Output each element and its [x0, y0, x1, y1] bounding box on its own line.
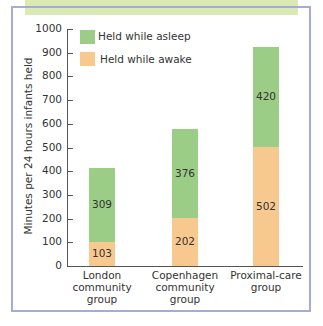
legend-swatch-awake	[80, 52, 95, 66]
value-label-asleep: 309	[82, 198, 122, 210]
x-axis	[67, 266, 303, 267]
x-category-label-line: Copenhagen	[145, 269, 225, 281]
x-category-label: Proximal-caregroup	[226, 269, 306, 293]
value-label-awake: 103	[82, 247, 122, 259]
x-category-label-line: group	[226, 281, 306, 293]
y-tick	[67, 171, 73, 172]
y-tick-label: 600	[22, 117, 62, 129]
x-category-label-line: Proximal-care	[226, 269, 306, 281]
y-tick-label: 0	[22, 259, 62, 271]
y-tick-label: 200	[22, 212, 62, 224]
y-tick-label: 700	[22, 93, 62, 105]
y-tick	[67, 76, 73, 77]
y-tick-label: 500	[22, 141, 62, 153]
legend-swatch-asleep	[80, 30, 95, 44]
y-tick-label: 1000	[22, 22, 62, 34]
y-tick	[67, 195, 73, 196]
y-tick	[67, 242, 73, 243]
x-category-label: Londoncommunitygroup	[62, 269, 142, 305]
x-category-label-line: group	[145, 293, 225, 305]
x-category-label-line: community	[145, 281, 225, 293]
y-tick	[67, 266, 73, 267]
y-tick	[67, 219, 73, 220]
value-label-asleep: 420	[246, 90, 286, 102]
legend-label-asleep: Held while asleep	[98, 30, 191, 42]
y-tick	[67, 29, 73, 30]
y-tick-label: 300	[22, 188, 62, 200]
y-tick-label: 400	[22, 164, 62, 176]
x-category-label: Copenhagencommunitygroup	[145, 269, 225, 305]
y-tick	[67, 124, 73, 125]
legend-label-awake: Held while awake	[100, 53, 192, 65]
y-tick	[67, 148, 73, 149]
y-tick	[67, 100, 73, 101]
x-category-label-line: community	[62, 281, 142, 293]
x-category-label-line: group	[62, 293, 142, 305]
value-label-awake: 502	[246, 200, 286, 212]
value-label-awake: 202	[165, 235, 205, 247]
x-category-label-line: London	[62, 269, 142, 281]
y-tick	[67, 53, 73, 54]
stacked-bar-chart: Minutes per 24 hours infants held Held w…	[0, 0, 323, 326]
y-tick-label: 900	[22, 46, 62, 58]
value-label-asleep: 376	[165, 167, 205, 179]
y-tick-label: 800	[22, 69, 62, 81]
y-tick-label: 100	[22, 235, 62, 247]
